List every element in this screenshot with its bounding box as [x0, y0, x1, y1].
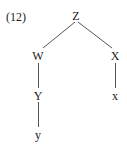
- example-number: (12): [6, 11, 26, 23]
- edge-z-x: [78, 22, 112, 48]
- node-y: Y: [34, 90, 43, 102]
- syntax-tree-diagram: (12) Z W X Y x y: [0, 0, 127, 150]
- leaf-y: y: [35, 129, 41, 141]
- node-w: W: [32, 50, 43, 62]
- leaf-x: x: [112, 90, 118, 102]
- edge-z-w: [43, 22, 75, 48]
- node-z: Z: [72, 10, 79, 22]
- node-x: X: [111, 50, 120, 62]
